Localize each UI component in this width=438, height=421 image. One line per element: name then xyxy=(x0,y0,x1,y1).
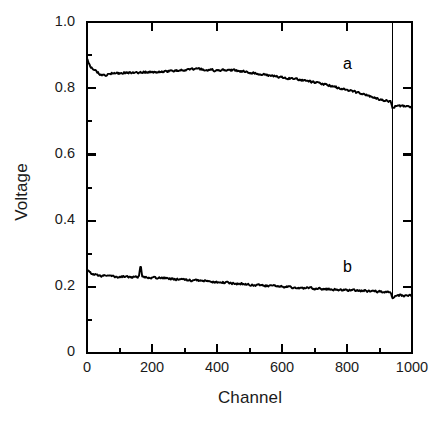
y-tick-label-0-6: 0.6 xyxy=(35,145,75,161)
y-tick-label-0-8: 0.8 xyxy=(35,79,75,95)
y-axis-label: Voltage xyxy=(12,147,32,237)
series-label-b: b xyxy=(343,258,352,276)
y-tick-label-0: 0 xyxy=(35,343,75,359)
y-tick-label-1-0: 1.0 xyxy=(35,13,75,29)
x-axis-label: Channel xyxy=(87,388,413,408)
chart-figure: Voltage Channel 1.0 0.8 0.6 0.4 0.2 0 0 … xyxy=(0,0,438,421)
x-tick-label-0: 0 xyxy=(57,359,117,375)
y-tick-label-0-4: 0.4 xyxy=(35,211,75,227)
y-tick-label-0-2: 0.2 xyxy=(35,277,75,293)
x-tick-label-400: 400 xyxy=(187,359,247,375)
x-tick-label-200: 200 xyxy=(122,359,182,375)
x-tick-label-1000: 1000 xyxy=(382,359,438,375)
x-tick-label-800: 800 xyxy=(317,359,377,375)
series-label-a: a xyxy=(343,55,352,73)
x-tick-label-600: 600 xyxy=(252,359,312,375)
